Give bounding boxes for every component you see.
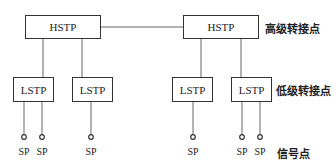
sp-label: SP bbox=[14, 146, 34, 157]
sp-node-icon bbox=[40, 135, 45, 140]
lstp-node-2: LSTP bbox=[72, 77, 113, 102]
sp-node-icon bbox=[22, 135, 27, 140]
hstp-label: HSTP bbox=[50, 21, 77, 33]
sp-label: SP bbox=[183, 146, 203, 157]
hstp-label: HSTP bbox=[208, 21, 235, 33]
lstp-node-3: LSTP bbox=[172, 77, 213, 102]
lstp-label: LSTP bbox=[239, 84, 265, 96]
sp-node-icon bbox=[240, 135, 245, 140]
legend-high-level: 高级转接点 bbox=[265, 20, 320, 36]
sp-label: SP bbox=[32, 146, 52, 157]
lstp-node-4: LSTP bbox=[231, 77, 272, 102]
lstp-label: LSTP bbox=[21, 84, 47, 96]
sp-label: SP bbox=[81, 146, 101, 157]
hstp-node-left: HSTP bbox=[25, 15, 101, 39]
legend-signal-point: 信号点 bbox=[277, 145, 310, 161]
lstp-node-1: LSTP bbox=[13, 77, 54, 102]
lstp-label: LSTP bbox=[180, 84, 206, 96]
sp-node-icon bbox=[191, 135, 196, 140]
lstp-label: LSTP bbox=[80, 84, 106, 96]
hstp-node-right: HSTP bbox=[183, 15, 259, 39]
sp-label: SP bbox=[232, 146, 252, 157]
legend-low-level: 低级转接点 bbox=[276, 82, 331, 98]
sp-node-icon bbox=[258, 135, 263, 140]
sp-label: SP bbox=[250, 146, 270, 157]
sp-node-icon bbox=[89, 135, 94, 140]
